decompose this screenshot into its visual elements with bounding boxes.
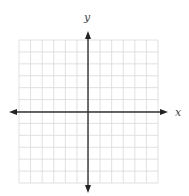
x-axis-label: x	[175, 106, 182, 119]
coordinate-plane: x y	[0, 0, 189, 196]
y-axis-bottom-arrow-icon	[85, 185, 91, 193]
y-axis-top-arrow-icon	[85, 31, 91, 39]
x-axis-right-arrow-icon	[160, 109, 168, 115]
x-axis-left-arrow-icon	[9, 109, 17, 115]
y-axis-label: y	[83, 11, 91, 24]
